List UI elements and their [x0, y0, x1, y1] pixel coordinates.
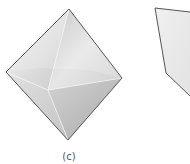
crystal-figure — [0, 0, 190, 164]
partial-crystal — [155, 8, 190, 96]
panel-label: (c) — [58, 151, 80, 162]
octahedron-inner-shade — [6, 9, 122, 78]
octahedron — [6, 9, 122, 140]
partial-crystal-face — [155, 8, 190, 96]
